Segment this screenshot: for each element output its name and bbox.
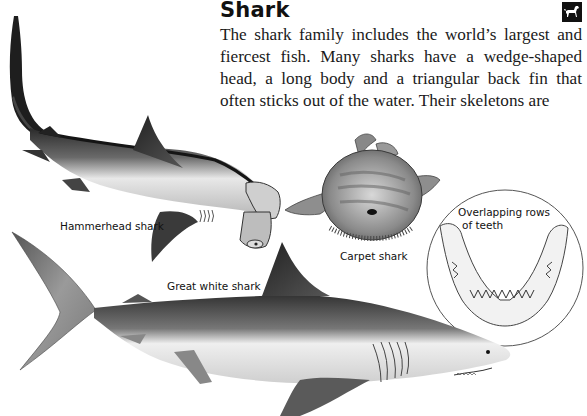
carpet-shark-label: Carpet shark: [340, 250, 408, 262]
hammerhead-shark-label: Hammerhead shark: [60, 220, 164, 232]
jaw-inset-label-line2: of teeth: [462, 219, 503, 231]
jaw-inset-label-line1: Overlapping rows: [458, 206, 550, 218]
carpet-shark-illustration: [285, 134, 440, 240]
encyclopedia-page: Shark The shark family includes the worl…: [0, 0, 587, 416]
great-white-shark-label: Great white shark: [167, 280, 261, 292]
